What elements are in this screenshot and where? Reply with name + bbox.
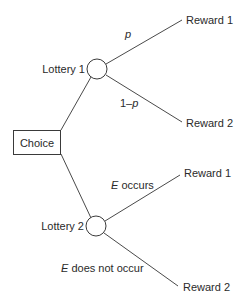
lottery-1-branch-2-prob-label: 1–p (120, 97, 138, 109)
lottery-2-reward-2-label: Reward 2 (183, 281, 230, 293)
choice-node: Choice (14, 131, 61, 155)
edge-lottery-2-to-reward-2 (104, 233, 178, 286)
lottery-1-reward-2-label: Reward 2 (186, 117, 233, 129)
edge-lottery-1-to-reward-2 (106, 75, 182, 122)
prob-italic: p (124, 28, 131, 40)
lottery-2-reward-1-label: Reward 1 (184, 167, 231, 179)
prob-italic: p (131, 97, 138, 109)
lottery-2-label: Lottery 2 (41, 220, 84, 232)
edge-choice-to-lottery-1 (61, 77, 91, 130)
lottery-1-branch-1-prob-label: p (124, 28, 131, 40)
edge-choice-to-lottery-2 (61, 154, 91, 218)
prob-rest: occurs (118, 179, 154, 191)
lottery-2-chance-node (86, 216, 106, 236)
lottery-2-branch-1-prob-label: E occurs (111, 179, 154, 191)
lottery-1-label: Lottery 1 (42, 63, 85, 75)
prob-rest: does not occur (68, 262, 144, 274)
choice-label: Choice (20, 137, 54, 149)
edge-lottery-1-to-reward-1 (106, 20, 182, 64)
lottery-2-branch-2-prob-label: E does not occur (61, 262, 144, 274)
lottery-2-node: Lottery 2 (41, 216, 106, 236)
decision-tree-diagram: Choice Lottery 1 Lottery 2 p 1–p E occur… (0, 0, 244, 302)
lottery-1-reward-1-label: Reward 1 (186, 14, 233, 26)
prob-prefix: 1– (120, 97, 133, 109)
lottery-1-chance-node (87, 59, 107, 79)
lottery-1-node: Lottery 1 (42, 59, 107, 79)
